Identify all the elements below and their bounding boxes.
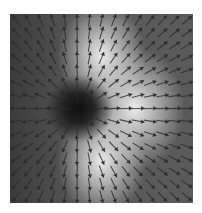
vector-field-plot bbox=[10, 14, 193, 203]
quiver-plot-canvas bbox=[10, 14, 193, 203]
